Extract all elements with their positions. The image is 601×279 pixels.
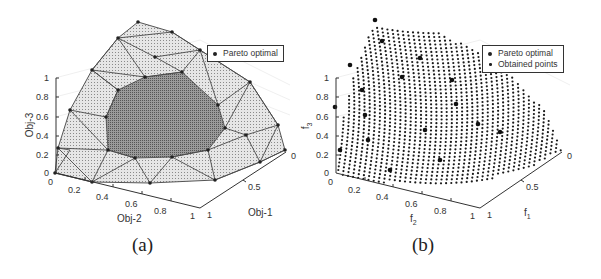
pareto-marker-icon bbox=[213, 52, 217, 56]
z-axis-label: f3 bbox=[301, 123, 313, 130]
z-axis-label: Obj-3 bbox=[25, 113, 35, 137]
z-tick: 1 bbox=[324, 74, 329, 83]
x-tick: 0.4 bbox=[96, 193, 109, 202]
x-tick: 0.6 bbox=[125, 200, 138, 209]
z-tick: 0.6 bbox=[316, 113, 329, 122]
x-axis-label: f2 bbox=[410, 214, 417, 226]
z-tick: 0.4 bbox=[36, 132, 49, 141]
y-tick: 0 bbox=[567, 152, 572, 161]
z-tick: 0.6 bbox=[36, 113, 49, 122]
y-tick: 0.5 bbox=[248, 183, 261, 192]
legend-a: Pareto optimal bbox=[207, 45, 284, 62]
x-tick: 0.2 bbox=[68, 186, 81, 195]
panel-b: 1 0.8 0.6 0.4 0.2 0 f3 0 0.2 0.4 0.6 0.8… bbox=[280, 0, 580, 279]
panel-a: 1 0.8 0.6 0.4 0.2 0 Obj-3 0 0.2 0.4 0.6 … bbox=[0, 0, 300, 279]
obtained-marker-icon bbox=[489, 63, 492, 66]
z-tick: 0.2 bbox=[316, 151, 329, 160]
y-axis-label: Obj-1 bbox=[248, 208, 272, 218]
x-axis-label: Obj-2 bbox=[117, 214, 141, 224]
legend-item-pareto: Pareto optimal bbox=[213, 48, 278, 59]
x-tick: 0.8 bbox=[154, 207, 167, 216]
x-tick: 0 bbox=[48, 178, 53, 187]
x-tick: 0.8 bbox=[434, 207, 447, 216]
pareto-marker-icon bbox=[488, 52, 492, 56]
x-tick: 0.2 bbox=[348, 186, 361, 195]
caption-a: (a) bbox=[132, 234, 153, 256]
x-tick: 1 bbox=[190, 212, 195, 221]
caption-b: (b) bbox=[412, 234, 434, 256]
y-axis-label: f1 bbox=[524, 208, 531, 220]
y-tick: 1 bbox=[207, 211, 212, 220]
y-tick: 0.5 bbox=[526, 183, 539, 192]
z-tick: 1 bbox=[44, 74, 49, 83]
y-tick: 1 bbox=[487, 211, 492, 220]
x-tick: 0.4 bbox=[376, 193, 389, 202]
x-tick: 1 bbox=[470, 212, 475, 221]
z-tick: 0.8 bbox=[36, 93, 49, 102]
legend-item-pareto: Pareto optimal bbox=[488, 48, 558, 59]
x-tick: 0.6 bbox=[405, 200, 418, 209]
z-tick: 0.2 bbox=[36, 151, 49, 160]
z-tick: 0.4 bbox=[316, 132, 329, 141]
x-tick: 0 bbox=[328, 178, 333, 187]
legend-item-obtained: Obtained points bbox=[488, 59, 558, 70]
legend-b: Pareto optimal Obtained points bbox=[482, 45, 564, 73]
z-tick: 0.8 bbox=[316, 93, 329, 102]
